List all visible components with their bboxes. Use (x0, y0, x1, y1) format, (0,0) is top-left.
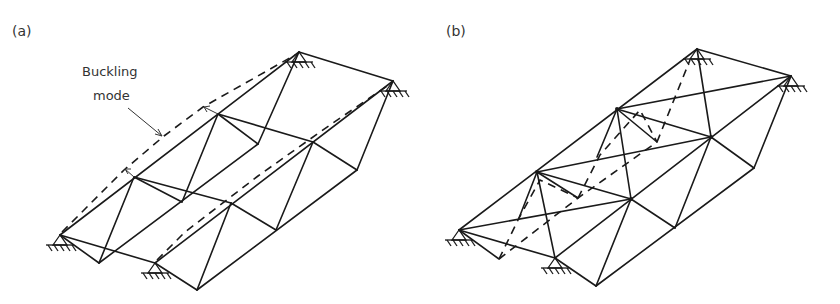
panel-b: (b) (445, 23, 807, 286)
panel-label-a: (a) (12, 23, 32, 39)
panel-label-b: (b) (446, 23, 466, 39)
panel-a: (a) Buckling mode (12, 23, 409, 290)
annotation-arrow-icon (128, 108, 162, 136)
buckling-mode-a (62, 55, 390, 260)
annotation-mode: mode (93, 88, 130, 103)
figure-canvas: (a) Buckling mode (0, 0, 840, 304)
buckling-mode-b (499, 60, 690, 259)
supports-a (46, 52, 409, 279)
truss-b-members (459, 49, 791, 286)
annotation-buckling: Buckling (82, 64, 138, 79)
